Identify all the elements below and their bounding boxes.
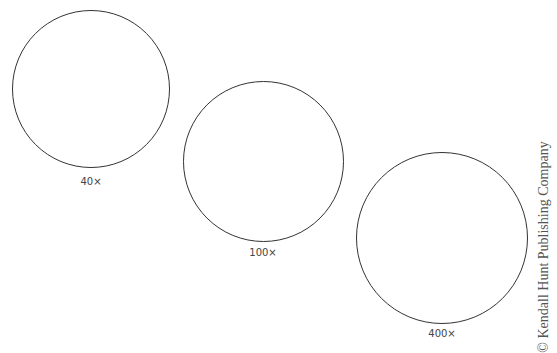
copyright-notice: © Kendall Hunt Publishing Company [536,141,552,352]
magnification-label-40x: 40× [80,176,101,187]
magnification-label-400x: 400× [428,328,455,339]
field-of-view-circle-100x [183,81,344,242]
field-of-view-circle-400x [356,152,528,324]
field-of-view-circle-40x [12,10,170,168]
magnification-label-100x: 100× [249,247,276,258]
